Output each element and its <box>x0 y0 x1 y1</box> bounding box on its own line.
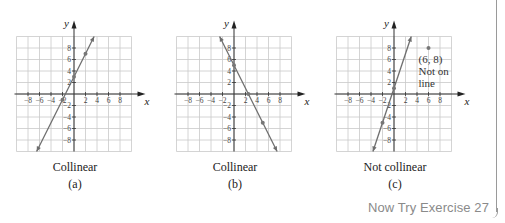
x-axis-label: x <box>144 95 150 107</box>
graph-label-b: (b) <box>160 177 310 192</box>
svg-text:−8: −8 <box>223 136 231 145</box>
svg-text:−8: −8 <box>24 96 32 105</box>
svg-text:2: 2 <box>404 96 408 105</box>
x-axis-label: x <box>304 95 310 107</box>
off-line-annotation: (6, 8)Not online <box>419 53 450 89</box>
off-line-point <box>427 46 431 50</box>
svg-text:2: 2 <box>387 78 391 87</box>
svg-text:−6: −6 <box>356 96 364 105</box>
svg-text:−4: −4 <box>63 113 71 122</box>
svg-text:−8: −8 <box>184 96 192 105</box>
svg-text:8: 8 <box>387 44 391 53</box>
y-axis-label: y <box>223 17 229 29</box>
svg-text:2: 2 <box>227 78 231 87</box>
data-point <box>84 52 88 56</box>
svg-text:−8: −8 <box>344 96 352 105</box>
svg-text:6: 6 <box>107 96 111 105</box>
svg-text:−2: −2 <box>63 101 71 110</box>
graph-title-c: Not collinear <box>320 160 470 175</box>
svg-text:4: 4 <box>255 96 259 105</box>
svg-text:−4: −4 <box>207 96 215 105</box>
graph-panel-c: xy−8−6−4−22468−8−6−4−22468(6, 8)Not onli… <box>320 0 480 190</box>
svg-text:4: 4 <box>95 96 99 105</box>
graph-panel-a: xy−8−6−4−22468−8−6−4−22468 Collinear (a) <box>0 0 160 190</box>
now-try-exercise-link[interactable]: Now Try Exercise 27 <box>368 200 489 215</box>
graph-title-b: Collinear <box>160 160 310 175</box>
svg-text:4: 4 <box>67 67 71 76</box>
y-axis-label: y <box>383 17 389 29</box>
svg-text:−6: −6 <box>63 124 71 133</box>
svg-text:−4: −4 <box>367 96 375 105</box>
coordinate-plane-a: xy−8−6−4−22468−8−6−4−22468 <box>0 0 160 160</box>
x-axis-label: x <box>464 95 470 107</box>
svg-text:8: 8 <box>438 96 442 105</box>
svg-text:6: 6 <box>387 55 391 64</box>
svg-text:−4: −4 <box>223 113 231 122</box>
svg-text:2: 2 <box>244 96 248 105</box>
data-point <box>61 98 65 102</box>
box-frame-corner <box>492 208 498 218</box>
svg-text:−6: −6 <box>223 124 231 133</box>
y-axis-arrow-icon <box>392 21 397 29</box>
svg-text:−6: −6 <box>383 124 391 133</box>
coordinate-plane-b: xy−8−6−4−22468−8−6−4−22468 <box>160 0 320 160</box>
svg-text:Not on: Not on <box>419 65 450 77</box>
graph-label-a: (a) <box>0 177 150 192</box>
svg-text:8: 8 <box>278 96 282 105</box>
svg-text:8: 8 <box>227 44 231 53</box>
svg-text:−8: −8 <box>383 136 391 145</box>
data-point <box>381 121 385 125</box>
svg-text:−6: −6 <box>36 96 44 105</box>
svg-text:8: 8 <box>118 96 122 105</box>
line-arrow-icon <box>372 146 376 151</box>
graph-panel-b: xy−8−6−4−22468−8−6−4−22468 Collinear (b) <box>160 0 320 190</box>
svg-text:6: 6 <box>67 55 71 64</box>
box-frame-right-border <box>496 0 497 212</box>
data-point <box>392 86 396 90</box>
svg-text:−2: −2 <box>223 101 231 110</box>
graph-title-a: Collinear <box>0 160 150 175</box>
line-arrow-icon <box>408 37 412 42</box>
svg-text:−4: −4 <box>47 96 55 105</box>
y-axis-arrow-icon <box>72 21 77 29</box>
svg-text:8: 8 <box>67 44 71 53</box>
svg-text:2: 2 <box>84 96 88 105</box>
svg-text:6: 6 <box>427 96 431 105</box>
data-point <box>261 121 265 125</box>
svg-text:−6: −6 <box>196 96 204 105</box>
data-point <box>72 75 76 79</box>
svg-text:4: 4 <box>227 67 231 76</box>
y-axis-arrow-icon <box>232 21 237 29</box>
y-axis-label: y <box>63 17 69 29</box>
coordinate-plane-c: xy−8−6−4−22468−8−6−4−22468(6, 8)Not onli… <box>320 0 480 160</box>
graph-label-c: (c) <box>320 177 470 192</box>
svg-text:6: 6 <box>267 96 271 105</box>
svg-text:4: 4 <box>387 67 391 76</box>
data-point <box>232 63 236 67</box>
svg-text:−8: −8 <box>63 136 71 145</box>
data-point <box>246 92 250 96</box>
svg-text:4: 4 <box>415 96 419 105</box>
svg-text:line: line <box>419 77 436 89</box>
